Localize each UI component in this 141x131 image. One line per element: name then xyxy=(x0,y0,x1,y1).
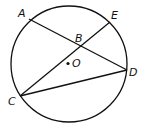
label-B: B xyxy=(75,32,83,45)
label-A: A xyxy=(17,7,26,20)
label-D: D xyxy=(129,66,137,79)
geometry-diagram: A E B D C O xyxy=(0,0,141,131)
center-dot xyxy=(66,62,69,65)
label-C: C xyxy=(8,95,16,108)
label-E: E xyxy=(111,9,118,22)
label-O: O xyxy=(72,57,81,70)
